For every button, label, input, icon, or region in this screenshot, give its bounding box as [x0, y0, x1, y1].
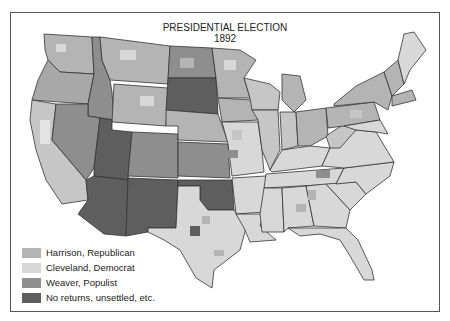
- state-utah: [94, 118, 132, 180]
- state-indiana: [280, 112, 298, 150]
- legend-label: Harrison, Republican: [46, 247, 135, 258]
- state-maine: [398, 32, 426, 84]
- state-michigan: [282, 74, 306, 112]
- legend-label: Cleveland, Democrat: [46, 262, 135, 273]
- state-ohio: [296, 108, 328, 146]
- swatch-no-returns: [22, 293, 41, 303]
- state-mississippi: [260, 188, 284, 232]
- swatch-democrat: [22, 263, 41, 273]
- state-florida: [288, 228, 374, 280]
- legend: Harrison, Republican Cleveland, Democrat…: [22, 245, 155, 305]
- legend-item-democrat: Cleveland, Democrat: [22, 260, 155, 275]
- state-kansas: [178, 142, 230, 178]
- legend-item-republican: Harrison, Republican: [22, 245, 155, 260]
- state-new-mexico: [126, 178, 178, 236]
- swatch-populist: [22, 278, 41, 288]
- legend-item-no-returns: No returns, unsettled, etc.: [22, 290, 155, 305]
- legend-label: No returns, unsettled, etc.: [46, 292, 155, 303]
- legend-item-populist: Weaver, Populist: [22, 275, 155, 290]
- state-south-dakota: [166, 78, 218, 114]
- swatch-republican: [22, 248, 41, 258]
- state-colorado: [128, 132, 178, 178]
- legend-label: Weaver, Populist: [46, 277, 117, 288]
- state-montana: [100, 37, 170, 84]
